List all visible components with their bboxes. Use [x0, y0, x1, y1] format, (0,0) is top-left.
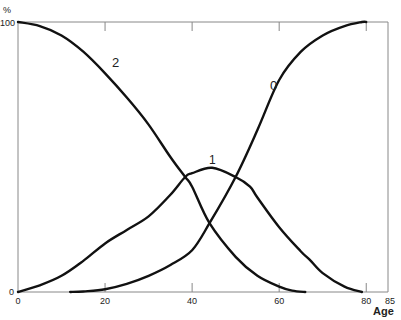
x-tick-label-40: 40 [187, 296, 197, 306]
x-tick-label-60: 60 [274, 296, 284, 306]
x-tick-label-0: 0 [15, 296, 20, 306]
curve-2 [18, 22, 305, 292]
x-axis-title: Age [373, 305, 394, 317]
curves [18, 22, 366, 292]
x-tick-label-20: 20 [100, 296, 110, 306]
curve-label-0: 0 [270, 78, 277, 93]
curve-label-1: 1 [209, 153, 216, 167]
plot-frame [18, 22, 388, 292]
age-percentage-chart: % 100 0 02040608085 Age 2 1 0 [0, 0, 401, 320]
tick-marks [105, 22, 366, 292]
y-tick-label-100: 100 [0, 18, 15, 28]
y-tick-label-0: 0 [9, 287, 14, 297]
y-unit-label: % [3, 5, 11, 15]
x-tick-label-80: 80 [361, 296, 371, 306]
curve-1 [18, 168, 362, 292]
curve-label-2: 2 [112, 55, 119, 70]
x-tick-labels: 02040608085 [15, 296, 395, 306]
